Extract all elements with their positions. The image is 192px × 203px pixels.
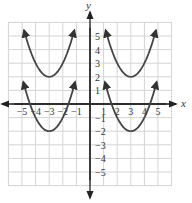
coordinate-plane: −5−4−3−2−11234554321−1−2−3−4−5 x y: [0, 0, 192, 203]
x-tick-label: −1: [71, 106, 82, 117]
x-axis-label: x: [180, 97, 186, 109]
y-tick-label: 4: [95, 45, 100, 56]
y-axis-label: y: [85, 0, 91, 11]
x-tick-label: −3: [44, 106, 55, 117]
y-tick-label: −3: [95, 140, 106, 151]
x-tick-label: 5: [156, 106, 161, 117]
x-tick-label: −5: [17, 106, 28, 117]
y-tick-label: 2: [95, 72, 100, 83]
y-tick-label: −4: [95, 153, 106, 164]
y-tick-label: −5: [95, 167, 106, 178]
y-tick-label: 1: [95, 85, 100, 96]
y-tick-label: 3: [95, 58, 100, 69]
y-tick-label: −2: [95, 126, 106, 137]
y-tick-label: 5: [95, 31, 100, 42]
parabola-curve: [131, 30, 156, 77]
x-tick-label: 3: [128, 106, 133, 117]
parabola-curve: [24, 30, 49, 77]
parabola-curve: [49, 30, 74, 77]
y-tick-label: −1: [95, 113, 106, 124]
parabola-curve: [106, 30, 131, 77]
